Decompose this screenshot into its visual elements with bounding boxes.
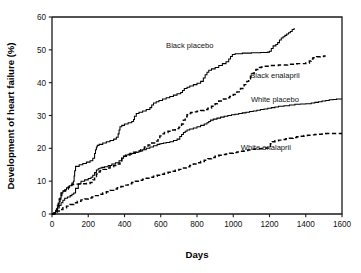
- x-tick-label: 200: [81, 220, 95, 229]
- heart-failure-step-chart: 0102030405060 02004006008001000120014001…: [0, 0, 361, 273]
- x-tick-label: 1400: [297, 220, 316, 229]
- y-tick-label: 60: [37, 13, 47, 22]
- x-tick-label: 1200: [260, 220, 279, 229]
- x-axis-tick-labels: 02004006008001000120014001600: [50, 220, 352, 229]
- x-tick-label: 1000: [224, 220, 243, 229]
- series-label: White placebo: [251, 95, 299, 104]
- y-tick-label: 50: [37, 46, 47, 55]
- x-tick-label: 600: [154, 220, 168, 229]
- y-tick-label: 30: [37, 112, 47, 121]
- series-label: White enalapril: [241, 143, 292, 152]
- y-tick-label: 20: [37, 144, 47, 153]
- y-tick-label: 40: [37, 79, 47, 88]
- x-axis-title: Days: [186, 249, 209, 260]
- x-tick-label: 400: [118, 220, 132, 229]
- x-tick-label: 800: [190, 220, 204, 229]
- x-tick-label: 0: [50, 220, 55, 229]
- x-tick-label: 1600: [333, 220, 352, 229]
- chart-figure: 0102030405060 02004006008001000120014001…: [0, 0, 361, 273]
- y-tick-label: 0: [41, 210, 46, 219]
- series-label: Black enalapril: [250, 71, 300, 80]
- y-tick-label: 10: [37, 177, 47, 186]
- y-axis-title: Development of heart failure (%): [5, 42, 16, 189]
- series-label: Black placebo: [166, 41, 213, 50]
